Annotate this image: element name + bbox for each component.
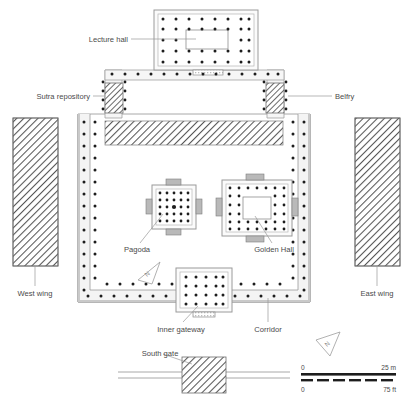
label-west-wing: West wing xyxy=(18,289,53,298)
golden-hall-structure xyxy=(216,174,298,242)
label-pagoda: Pagoda xyxy=(124,245,151,254)
inner-gateway-structure xyxy=(176,268,232,317)
belfry-structure xyxy=(266,83,284,113)
pagoda-west-step xyxy=(146,199,152,214)
label-inner-gateway: Inner gateway xyxy=(157,325,205,334)
golden-hall-east-step xyxy=(292,198,298,216)
label-golden-hall: Golden Hall xyxy=(254,245,294,254)
north-platform-hatched xyxy=(105,121,283,145)
label-lecture-hall: Lecture hall xyxy=(89,35,129,44)
golden-hall-north-step xyxy=(246,174,264,180)
scale-metric-min: 0 xyxy=(301,364,305,371)
label-south-gate: South gate xyxy=(142,349,179,358)
scale-imperial-min: 0 xyxy=(301,386,305,393)
scale-bar-metric xyxy=(301,373,396,376)
inner-gateway-step xyxy=(193,312,215,317)
scale-imperial-max: 75 ft xyxy=(383,386,396,393)
label-east-wing: East wing xyxy=(361,289,394,298)
floor-plan-figure: Lecture hall Sutra repository Belfry Wes… xyxy=(0,0,412,418)
sutra-repository-structure xyxy=(105,83,123,113)
label-corridor: Corridor xyxy=(254,325,282,334)
pagoda-structure xyxy=(146,179,202,235)
golden-hall-south-step xyxy=(246,236,264,242)
label-sutra-repository: Sutra repository xyxy=(36,92,90,101)
pagoda-south-step xyxy=(166,229,181,235)
scale-metric-max: 25 m xyxy=(381,364,396,371)
pagoda-north-step xyxy=(166,179,181,185)
lecture-hall-structure xyxy=(154,10,258,75)
label-belfry: Belfry xyxy=(335,92,355,101)
pagoda-east-step xyxy=(196,199,202,214)
east-wing-structure xyxy=(355,118,400,266)
west-wing-structure xyxy=(13,118,58,266)
golden-hall-west-step xyxy=(216,198,222,216)
